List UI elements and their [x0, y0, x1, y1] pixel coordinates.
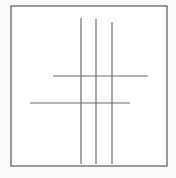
line-drawing-canvas: [0, 0, 176, 178]
figure-frame-border: [11, 6, 167, 166]
figure-container: Hash grid line drawing 3 2 6: [0, 0, 176, 178]
